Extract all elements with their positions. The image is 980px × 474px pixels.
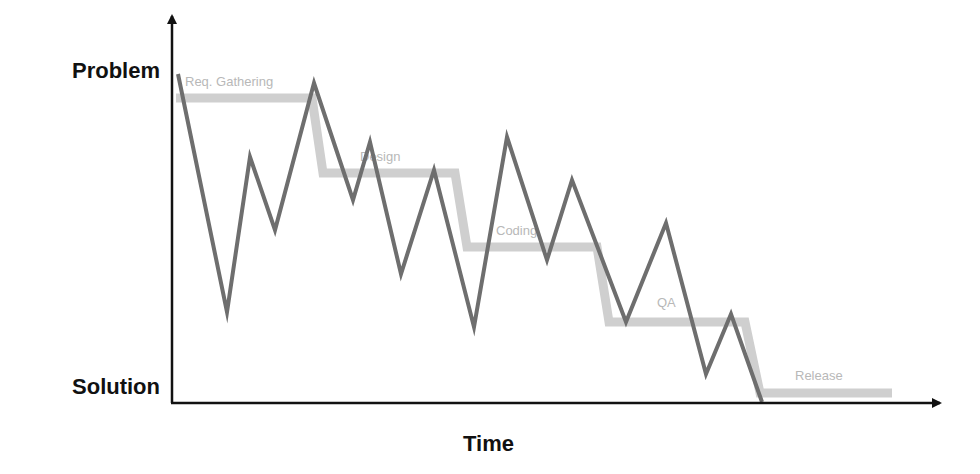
x-axis-label: Time [463,431,514,457]
y-axis-top-label: Problem [72,58,160,84]
phase-label-coding: Coding [496,223,537,238]
phase-label-qa: QA [657,295,676,310]
phase-label-req-gathering: Req. Gathering [185,74,273,89]
phase-staircase-band [176,98,892,393]
y-axis-bottom-label: Solution [72,374,160,400]
phase-label-release: Release [795,368,843,383]
diagram-canvas: Req. Gathering Design Coding QA Release … [0,0,980,474]
